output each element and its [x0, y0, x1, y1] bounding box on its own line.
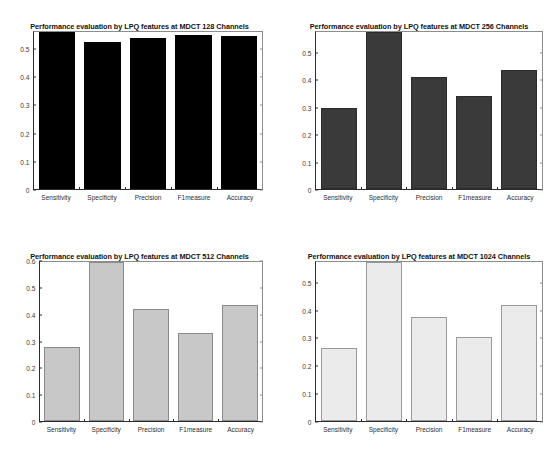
bar-precision — [130, 38, 166, 189]
bar-f1measure — [456, 96, 492, 189]
y-tick-label: 0 — [308, 419, 315, 426]
x-tick-mark — [125, 187, 126, 190]
y-tick-mark — [33, 190, 36, 191]
chart-panel-mdct-1024: Performance evaluation by LPQ features a… — [279, 232, 559, 465]
chart-panel-mdct-256: Performance evaluation by LPQ features a… — [279, 0, 559, 232]
bar-sensitivity — [44, 347, 80, 421]
y-tick-mark — [315, 282, 318, 283]
bar-slot — [452, 262, 497, 421]
x-tick-label-precision: Precision — [416, 194, 443, 201]
bar-accuracy — [501, 70, 537, 189]
y-tick-mark-right — [260, 77, 263, 78]
bar-slot — [173, 262, 217, 421]
y-tick-label: 0.5 — [26, 284, 39, 291]
y-tick-mark — [39, 368, 42, 369]
y-tick-mark-right — [540, 338, 543, 339]
bar-slot — [316, 262, 361, 421]
y-tick-mark — [33, 161, 36, 162]
x-tick-label-f1measure: F1measure — [178, 194, 211, 201]
bar-slot — [171, 32, 217, 189]
x-tick-label-f1measure: F1measure — [179, 426, 212, 433]
bar-accuracy — [501, 305, 537, 421]
y-tick-mark-right — [540, 190, 543, 191]
y-tick-mark-right — [260, 287, 263, 288]
y-tick-label: 0 — [26, 187, 33, 194]
bar-slot — [129, 262, 173, 421]
y-tick-label: 0.5 — [20, 45, 33, 52]
y-tick-label: 0.3 — [20, 102, 33, 109]
y-tick-label: 0.2 — [20, 130, 33, 137]
bar-precision — [133, 309, 169, 421]
x-tick-label-precision: Precision — [135, 194, 162, 201]
y-tick-mark-right — [540, 310, 543, 311]
x-tick-mark — [173, 419, 174, 422]
bar-f1measure — [456, 337, 492, 421]
bar-series — [316, 262, 542, 421]
y-tick-mark — [39, 395, 42, 396]
y-tick-mark-right — [260, 161, 263, 162]
x-tick-label-sensitivity: Sensitivity — [323, 194, 352, 201]
y-tick-label: 0 — [308, 187, 315, 194]
x-tick-label-precision: Precision — [138, 426, 165, 433]
y-tick-mark — [33, 133, 36, 134]
y-tick-label: 0.3 — [302, 335, 315, 342]
bar-slot — [40, 262, 84, 421]
y-tick-mark — [315, 135, 318, 136]
x-tick-label-f1measure: F1measure — [458, 194, 491, 201]
y-tick-mark-right — [540, 366, 543, 367]
x-tick-mark — [361, 419, 362, 422]
y-tick-mark-right — [260, 341, 263, 342]
x-tick-mark — [218, 419, 219, 422]
y-tick-label: 0.2 — [302, 132, 315, 139]
y-tick-label: 0.4 — [26, 311, 39, 318]
y-tick-mark — [39, 314, 42, 315]
plot-area: 00.10.20.30.40.5 SensitivitySpecificityP… — [33, 31, 263, 190]
plot-area: 00.10.20.30.40.5 SensitivitySpecificityP… — [315, 31, 543, 190]
chart-panel-mdct-128: Performance evaluation by LPQ features a… — [0, 0, 279, 232]
chart-title: Performance evaluation by LPQ features a… — [279, 22, 559, 31]
x-tick-label-precision: Precision — [416, 426, 443, 433]
x-tick-mark — [217, 187, 218, 190]
x-tick-mark — [129, 419, 130, 422]
bar-slot — [316, 32, 361, 189]
y-tick-label: 0 — [32, 419, 39, 426]
y-tick-mark — [315, 366, 318, 367]
x-tick-mark — [406, 419, 407, 422]
bar-f1measure — [178, 333, 214, 421]
y-tick-mark-right — [260, 422, 263, 423]
bar-precision — [411, 77, 447, 189]
bar-slot — [216, 32, 262, 189]
x-tick-label-sensitivity: Sensitivity — [323, 426, 352, 433]
x-tick-mark — [406, 187, 407, 190]
bar-slot — [34, 32, 80, 189]
y-tick-label: 0.1 — [302, 391, 315, 398]
bar-slot — [406, 32, 451, 189]
bar-accuracy — [222, 305, 258, 421]
x-tick-mark — [497, 187, 498, 190]
bar-slot — [84, 262, 128, 421]
x-tick-label-specificity: Specificity — [87, 194, 116, 201]
bar-slot — [218, 262, 262, 421]
bar-specificity — [89, 262, 125, 421]
y-tick-mark — [315, 52, 318, 53]
bar-sensitivity — [39, 32, 75, 189]
y-tick-label: 0.6 — [26, 258, 39, 265]
y-tick-label: 0.2 — [302, 363, 315, 370]
y-tick-mark — [39, 261, 42, 262]
bar-specificity — [366, 262, 402, 421]
chart-panel-mdct-512: Performance evaluation by LPQ features a… — [0, 232, 279, 465]
x-tick-mark — [79, 187, 80, 190]
y-tick-label: 0.4 — [302, 307, 315, 314]
y-tick-mark — [315, 80, 318, 81]
x-tick-label-f1measure: F1measure — [458, 426, 491, 433]
plot-area: 00.10.20.30.40.50.6 SensitivitySpecifici… — [39, 261, 263, 422]
bar-sensitivity — [321, 348, 357, 421]
y-tick-mark-right — [260, 395, 263, 396]
bar-specificity — [366, 32, 402, 189]
x-tick-mark — [171, 187, 172, 190]
x-tick-mark — [361, 187, 362, 190]
y-tick-label: 0.4 — [20, 74, 33, 81]
y-tick-mark-right — [260, 48, 263, 49]
y-tick-label: 0.4 — [302, 77, 315, 84]
x-tick-label-sensitivity: Sensitivity — [47, 426, 76, 433]
